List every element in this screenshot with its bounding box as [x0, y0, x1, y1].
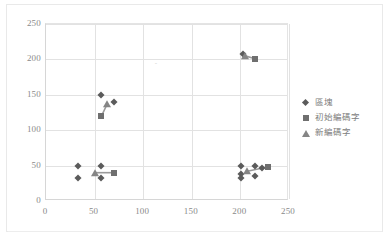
legend-item-label: 初始編碼字	[315, 112, 360, 122]
x-axis-tick-label: 200	[219, 207, 259, 216]
legend-item-label: 新編碼字	[315, 127, 351, 137]
legend-item[interactable]: 區塊	[301, 95, 367, 109]
legend-item[interactable]: 新編碼字	[301, 125, 367, 139]
data-point-triangle[interactable]	[241, 52, 249, 59]
legend-item-label: 區塊	[315, 97, 333, 107]
data-point-square[interactable]	[252, 56, 258, 62]
triangle-marker-icon	[301, 127, 312, 138]
stray-annotation-mark: ˜	[155, 62, 157, 69]
x-axis-tick-label: 0	[25, 207, 65, 216]
gridline-vertical	[289, 24, 290, 199]
data-point-square[interactable]	[111, 170, 117, 176]
diamond-marker-icon	[301, 97, 312, 108]
x-axis-tick-label: 150	[171, 207, 211, 216]
chart-legend: 區塊初始編碼字新編碼字	[299, 92, 369, 143]
x-axis-tick-label: 100	[122, 207, 162, 216]
data-point-triangle[interactable]	[243, 167, 251, 174]
square-marker-icon	[301, 112, 312, 123]
plot-area: ˜	[45, 23, 288, 200]
legend-item[interactable]: 初始編碼字	[301, 110, 367, 124]
x-axis-tick-label: 50	[74, 207, 114, 216]
data-point-square[interactable]	[265, 164, 271, 170]
data-point-triangle[interactable]	[91, 169, 99, 176]
data-point-triangle[interactable]	[103, 100, 111, 107]
x-axis-tick-label: 250	[268, 207, 308, 216]
scatter-chart-figure: 050100150200250 050100150200250 ˜ 區塊初始編碼…	[0, 0, 390, 243]
data-point-square[interactable]	[98, 113, 104, 119]
